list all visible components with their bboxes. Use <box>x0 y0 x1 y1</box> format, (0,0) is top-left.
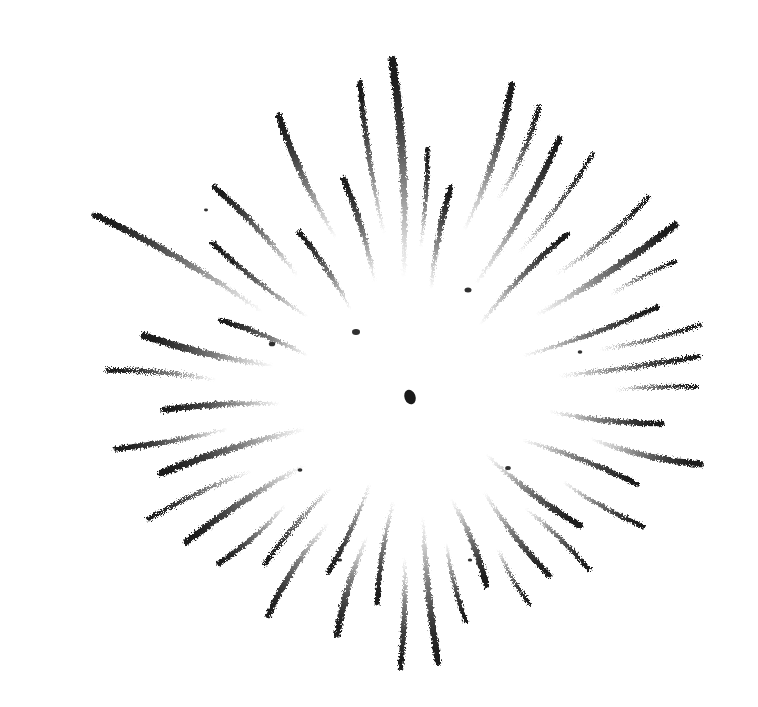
ink-speckle-6 <box>298 468 303 471</box>
ink-speckle-1 <box>352 329 360 335</box>
artboard: Ink Starburst Explosion Hand-drawn black… <box>0 0 758 707</box>
ink-speckle-4 <box>229 260 234 264</box>
ink-speckle-5 <box>505 466 511 470</box>
ink-speckle-10 <box>338 558 342 561</box>
ink-speckle-3 <box>465 287 472 292</box>
ink-speckle-8 <box>204 209 208 212</box>
starburst-illustration <box>0 0 758 707</box>
ink-speckle-2 <box>269 342 275 347</box>
ink-speckle-7 <box>468 558 472 561</box>
ink-speckle-9 <box>578 350 583 353</box>
